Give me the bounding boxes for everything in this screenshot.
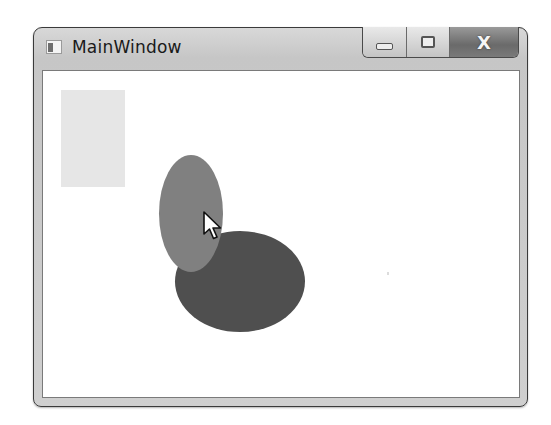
close-icon: X (477, 32, 491, 53)
app-window-icon[interactable] (46, 40, 62, 54)
gray-rectangle[interactable] (61, 90, 125, 187)
minimize-button[interactable] (363, 27, 407, 57)
title-bar[interactable]: MainWindow X (34, 28, 527, 70)
main-window: MainWindow X (33, 27, 528, 407)
client-area[interactable] (42, 70, 520, 398)
artifact-dot (387, 272, 389, 275)
window-title: MainWindow (72, 37, 182, 57)
minimize-icon (376, 43, 393, 50)
maximize-icon (421, 36, 435, 48)
maximize-button[interactable] (407, 27, 450, 57)
close-button[interactable]: X (450, 27, 518, 57)
caption-buttons: X (362, 27, 519, 58)
mouse-cursor-icon (202, 210, 224, 242)
